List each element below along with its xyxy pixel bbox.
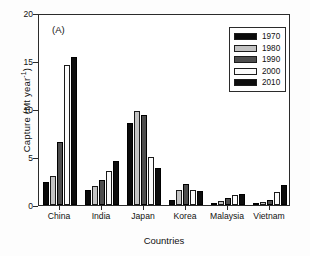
bar-china-1980 xyxy=(50,176,56,205)
legend-swatch-1980 xyxy=(234,45,257,52)
bar-china-1970 xyxy=(43,182,49,205)
bar-vietnam-1970 xyxy=(253,203,259,205)
bar-malaysia-1990 xyxy=(225,198,231,205)
legend-label-1970: 1970 xyxy=(262,32,280,41)
bar-japan-2010 xyxy=(155,168,161,205)
bar-japan-2000 xyxy=(148,157,154,205)
x-tick-label-japan: Japan xyxy=(131,211,154,221)
bar-japan-1990 xyxy=(141,115,147,205)
y-axis-title-exponent: -1 xyxy=(20,71,27,77)
bar-china-1990 xyxy=(57,142,63,205)
legend-label-2010: 2010 xyxy=(262,78,280,87)
y-axis-title-tail: ) xyxy=(21,68,32,71)
bar-china-2010 xyxy=(71,57,77,205)
panel-label: (A) xyxy=(52,24,65,35)
x-tick-label-korea: Korea xyxy=(174,211,197,221)
x-tick-mark xyxy=(101,206,102,210)
bar-india-1980 xyxy=(92,186,98,205)
bar-korea-2010 xyxy=(197,191,203,205)
legend-item-1980[interactable]: 1980 xyxy=(234,44,280,53)
x-tick-mark xyxy=(143,206,144,210)
x-tick-mark xyxy=(185,206,186,210)
bar-vietnam-2000 xyxy=(274,192,280,205)
bar-india-1970 xyxy=(85,190,91,205)
bar-japan-1980 xyxy=(134,111,140,205)
bar-vietnam-1980 xyxy=(260,202,266,205)
bar-india-1990 xyxy=(99,180,105,205)
bar-malaysia-1970 xyxy=(211,203,217,205)
bar-japan-1970 xyxy=(127,123,133,205)
bar-india-2000 xyxy=(106,171,112,205)
legend-item-1990[interactable]: 1990 xyxy=(234,55,280,64)
bar-china-2000 xyxy=(64,65,70,205)
legend-swatch-1990 xyxy=(234,56,257,63)
legend-item-2010[interactable]: 2010 xyxy=(234,78,280,87)
x-tick-label-india: India xyxy=(92,211,111,221)
bar-malaysia-2000 xyxy=(232,195,238,205)
bar-korea-1980 xyxy=(176,190,182,205)
bar-korea-1990 xyxy=(183,184,189,205)
bar-malaysia-2010 xyxy=(239,194,245,205)
legend-label-1980: 1980 xyxy=(262,44,280,53)
legend-swatch-2000 xyxy=(234,68,257,75)
bar-vietnam-1990 xyxy=(267,200,273,205)
x-tick-mark xyxy=(59,206,60,210)
legend-swatch-2010 xyxy=(234,79,257,86)
x-tick-label-vietnam: Vietnam xyxy=(253,211,284,221)
bar-india-2010 xyxy=(113,161,119,205)
y-tick-mark xyxy=(33,206,38,207)
x-tick-label-malaysia: Malaysia xyxy=(210,211,244,221)
legend-item-1970[interactable]: 1970 xyxy=(234,32,280,41)
legend-label-2000: 2000 xyxy=(262,67,280,76)
legend: 19701980199020002010 xyxy=(229,27,286,92)
bar-vietnam-2010 xyxy=(281,185,287,205)
x-tick-mark xyxy=(227,206,228,210)
bar-korea-1970 xyxy=(169,200,175,205)
bar-korea-2000 xyxy=(190,190,196,205)
bar-malaysia-1980 xyxy=(218,201,224,205)
legend-label-1990: 1990 xyxy=(262,55,280,64)
legend-item-2000[interactable]: 2000 xyxy=(234,67,280,76)
legend-swatch-1970 xyxy=(234,33,257,40)
x-tick-mark xyxy=(269,206,270,210)
x-tick-label-china: China xyxy=(48,211,70,221)
chart-figure: Capture (Mt year-1) Countries 05101520 C… xyxy=(0,0,310,256)
x-axis-title: Countries xyxy=(38,235,290,246)
